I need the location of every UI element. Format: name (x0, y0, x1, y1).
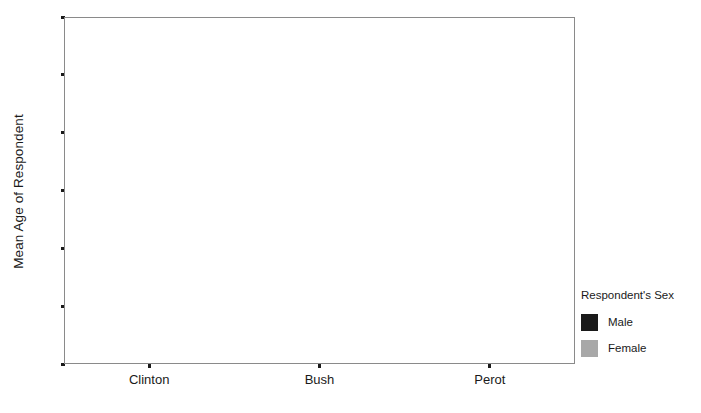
x-tick-mark (318, 364, 321, 368)
legend-item-label: Male (608, 315, 633, 329)
x-tick-mark (148, 364, 151, 368)
legend-entries: MaleFemale (581, 311, 699, 359)
x-tick-mark (488, 364, 491, 368)
legend-swatch-icon (581, 340, 598, 357)
legend: Respondent's Sex MaleFemale (581, 288, 699, 363)
legend-swatch-icon (581, 314, 598, 331)
legend-item-label: Female (608, 341, 646, 355)
x-tick-label: Perot (420, 371, 560, 389)
legend-item[interactable]: Male (581, 311, 699, 333)
legend-item[interactable]: Female (581, 337, 699, 359)
plot-area (64, 17, 575, 364)
legend-title: Respondent's Sex (581, 288, 699, 302)
x-tick-label: Bush (250, 371, 390, 389)
chart-figure: Mean Age of Respondent 40424446485052 Cl… (0, 0, 701, 413)
y-axis-title: Mean Age of Respondent (8, 18, 30, 365)
x-tick-label: Clinton (79, 371, 219, 389)
